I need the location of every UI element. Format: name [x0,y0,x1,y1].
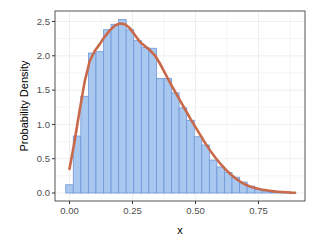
y-axis-ticks: 0.00.51.01.52.02.5 [37,16,55,199]
histogram-bar [209,160,217,193]
histogram-bar [172,93,180,193]
histogram-bar [217,167,225,193]
y-tick-label: 1.0 [37,119,50,130]
y-tick-label: 0.5 [37,153,50,164]
histogram-bar [111,24,119,193]
histogram-bar [179,108,187,193]
x-axis-label: x [177,224,183,236]
histogram-bar [104,30,112,193]
y-axis-label: Probability Density [18,60,30,152]
x-tick-label: 0.75 [249,205,268,216]
histogram-bar [88,53,96,193]
x-tick-label: 0.25 [123,205,142,216]
histogram-bar [81,96,89,193]
histogram-bar [134,41,142,193]
y-tick-label: 0.0 [37,187,50,198]
y-tick-label: 1.5 [37,84,50,95]
x-tick-label: 0.00 [60,205,79,216]
chart-svg: 0.000.250.500.75 0.00.51.01.52.02.5 x Pr… [0,0,320,244]
histogram-bar [202,145,210,193]
histogram-bar [149,48,157,193]
histogram-bar [141,48,149,193]
y-tick-label: 2.0 [37,50,50,61]
x-axis-ticks: 0.000.250.500.75 [60,201,268,216]
histogram-bar [156,78,164,193]
histogram-bar [187,120,195,193]
histogram-bar [119,19,127,193]
x-tick-label: 0.50 [186,205,205,216]
histogram-chart: 0.000.250.500.75 0.00.51.01.52.02.5 x Pr… [0,0,320,244]
histogram-bar [164,78,172,193]
histogram-bar [194,137,202,193]
histogram-bar [96,52,104,193]
y-tick-label: 2.5 [37,16,50,27]
histogram-bar [126,30,134,193]
histogram-bar [66,185,74,193]
